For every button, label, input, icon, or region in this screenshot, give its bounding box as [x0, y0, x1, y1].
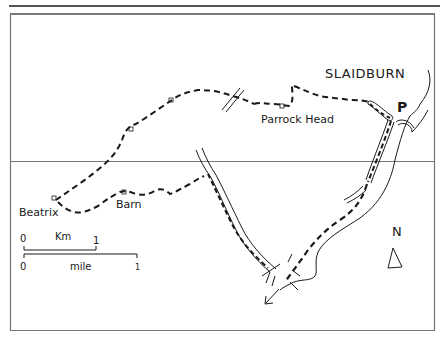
frame-outline	[11, 15, 435, 331]
label-parrock-head: Parrock Head	[261, 113, 334, 126]
scale-km-start: 0	[20, 233, 26, 244]
label-barn: Barn	[116, 198, 142, 211]
label-north: N	[392, 224, 402, 239]
map-frame	[11, 14, 435, 162]
label-beatrix: Beatrix	[19, 206, 59, 219]
scale-km-label: Km	[55, 231, 71, 242]
scale-mile-start: 0	[20, 261, 26, 272]
map-outer-border	[11, 14, 437, 159]
road-crossing-north	[222, 88, 244, 112]
river	[280, 70, 430, 290]
building-parrock-head	[280, 104, 284, 108]
road-slaidburn-south	[366, 120, 388, 180]
label-parking: P	[397, 99, 407, 115]
scale-bar: 0 Km 1 0 mile 1	[20, 231, 140, 272]
route-on-road-east	[368, 121, 391, 182]
road-west	[196, 150, 270, 272]
map-border	[11, 14, 435, 162]
bridge-marks	[262, 254, 300, 290]
scale-mile-end: 1	[135, 263, 140, 272]
scale-km-end: 1	[93, 235, 99, 246]
route-map: SLAIDBURN P Parrock Head Beatrix Barn N …	[0, 0, 442, 342]
map-frame-border	[11, 14, 435, 162]
building-beatrix	[52, 196, 56, 200]
north-arrow-icon: N	[388, 224, 402, 268]
scale-mile-label: mile	[70, 261, 91, 272]
direction-arrow-icon	[265, 289, 279, 304]
label-slaidburn: SLAIDBURN	[325, 66, 405, 81]
